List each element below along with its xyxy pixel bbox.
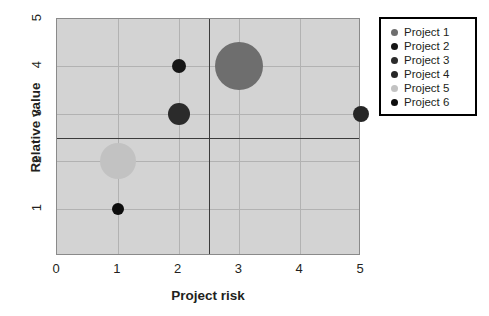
x-tick-label: 5 (345, 261, 375, 276)
y-tick-label: 5 (29, 6, 44, 30)
quadrant-divider-horizontal (57, 138, 359, 139)
legend-item-label: Project 3 (404, 53, 449, 67)
legend-item-label: Project 6 (404, 95, 449, 109)
bubble-project-4[interactable] (353, 106, 369, 122)
gridline-vertical (118, 19, 119, 254)
gridline-vertical (300, 19, 301, 254)
legend-item[interactable]: Project 2 (391, 39, 475, 53)
x-tick-label: 3 (223, 261, 253, 276)
bubble-project-3[interactable] (168, 103, 190, 125)
legend-marker-icon (391, 99, 398, 106)
x-tick-label: 2 (163, 261, 193, 276)
bubble-chart: 012345 12345 Project risk Relative value… (0, 0, 489, 316)
y-axis-title: Relative value (28, 48, 43, 208)
legend-item-label: Project 2 (404, 39, 449, 53)
gridline-horizontal (57, 66, 359, 67)
legend: Project 1Project 2Project 3Project 4Proj… (379, 17, 477, 116)
bubble-project-1[interactable] (215, 42, 263, 90)
plot-area (56, 18, 360, 255)
legend-marker-icon (391, 71, 398, 78)
gridline-horizontal (57, 114, 359, 115)
bubble-project-5[interactable] (100, 143, 136, 179)
legend-marker-icon (391, 43, 398, 50)
x-tick-label: 4 (284, 261, 314, 276)
x-tick-label: 0 (41, 261, 71, 276)
legend-item-label: Project 4 (404, 67, 449, 81)
legend-item-label: Project 5 (404, 81, 449, 95)
bubble-project-2[interactable] (172, 59, 186, 73)
legend-item[interactable]: Project 3 (391, 53, 475, 67)
legend-item[interactable]: Project 4 (391, 67, 475, 81)
x-tick-label: 1 (102, 261, 132, 276)
legend-item-label: Project 1 (404, 25, 449, 39)
legend-item[interactable]: Project 1 (391, 25, 475, 39)
legend-marker-icon (391, 29, 398, 36)
bubble-project-6[interactable] (112, 203, 124, 215)
quadrant-divider-vertical (209, 19, 210, 254)
legend-item[interactable]: Project 6 (391, 95, 475, 109)
gridline-horizontal (57, 209, 359, 210)
x-axis-title: Project risk (56, 288, 360, 303)
legend-marker-icon (391, 85, 398, 92)
legend-item[interactable]: Project 5 (391, 81, 475, 95)
gridline-vertical (179, 19, 180, 254)
legend-marker-icon (391, 57, 398, 64)
